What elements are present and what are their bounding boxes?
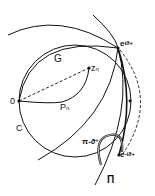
- g-boundary: [19, 46, 118, 101]
- label-zn: zn: [91, 64, 99, 73]
- label-c: C: [16, 124, 23, 133]
- label-angle: π-ϑ+: [82, 138, 98, 146]
- label-g: G: [54, 54, 62, 64]
- pi-curve: [95, 48, 123, 185]
- diagram: G zn 0 Pn C eiϑ+ e-iϑ+ π-ϑ+ Π: [0, 0, 155, 196]
- label-pn: Pn: [60, 103, 69, 112]
- label-pi: Π: [107, 175, 114, 185]
- point-o: [17, 99, 20, 102]
- region-g-arc: [38, 48, 118, 160]
- point-mid: [129, 100, 132, 103]
- label-o: 0: [10, 97, 15, 106]
- tangent-line-top: [93, 15, 118, 48]
- label-e-minus: e-iϑ+: [120, 151, 135, 159]
- label-e-plus: eiϑ+: [120, 40, 133, 48]
- outer-arc: [8, 25, 118, 48]
- diagram-lines: [0, 0, 155, 196]
